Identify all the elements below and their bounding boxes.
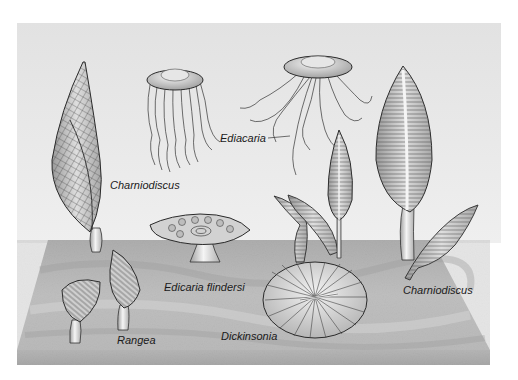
- label-charniodiscus-left: Charniodiscus: [110, 180, 180, 191]
- label-rangea: Rangea: [117, 335, 156, 346]
- label-charniodiscus-right: Charniodiscus: [403, 285, 473, 296]
- label-edicaria-flindersi: Edicaria flindersi: [164, 282, 245, 293]
- ediacaran-scene: [0, 0, 518, 380]
- label-dickinsonia: Dickinsonia: [221, 331, 277, 342]
- label-ediacaria: Ediacaria: [220, 133, 266, 144]
- dickinsonia-organism: [263, 262, 367, 338]
